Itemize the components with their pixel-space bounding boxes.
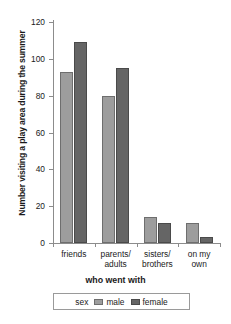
x-axis-category-label: sisters/ brothers — [134, 249, 182, 270]
x-axis-tick — [95, 243, 96, 247]
bar-female-3[interactable] — [200, 237, 213, 243]
legend-swatch-female-icon — [131, 299, 140, 305]
legend-entry-female[interactable]: female — [131, 297, 168, 307]
x-axis-tick — [137, 243, 138, 247]
y-axis-tick-label: 0 — [40, 239, 45, 247]
x-axis-category-label: parents/ adults — [92, 249, 140, 270]
legend-label-female: female — [143, 297, 168, 307]
x-axis-tick — [178, 243, 179, 247]
x-axis-category-label: friends — [50, 249, 98, 259]
legend-entry-male[interactable]: male — [94, 297, 124, 307]
bar-female-2[interactable] — [158, 223, 171, 243]
bar-female-0[interactable] — [74, 42, 87, 243]
legend-label-male: male — [106, 297, 124, 307]
bar-chart: Number visiting a play area during the s… — [0, 0, 231, 324]
legend-title: sex — [75, 297, 88, 307]
plot-area — [53, 22, 220, 243]
y-axis-tick-label: 80 — [36, 91, 45, 99]
x-axis-title: who went with — [0, 275, 231, 285]
y-axis-tick-label: 20 — [36, 202, 45, 210]
y-axis-tick-label: 40 — [36, 165, 45, 173]
legend: sex male female — [53, 293, 190, 310]
legend-swatch-male-icon — [94, 299, 103, 305]
bar-male-0[interactable] — [60, 72, 73, 243]
bar-male-1[interactable] — [102, 96, 115, 243]
y-axis-tick-label: 120 — [31, 18, 45, 26]
y-axis-tick-label: 60 — [36, 128, 45, 136]
x-axis-tick — [53, 243, 54, 247]
bar-female-1[interactable] — [116, 68, 129, 243]
y-axis-tick-label: 100 — [31, 55, 45, 63]
bar-male-2[interactable] — [144, 217, 157, 243]
x-axis-tick — [220, 243, 221, 247]
bar-male-3[interactable] — [186, 223, 199, 243]
x-axis-category-label: on my own — [175, 249, 223, 270]
